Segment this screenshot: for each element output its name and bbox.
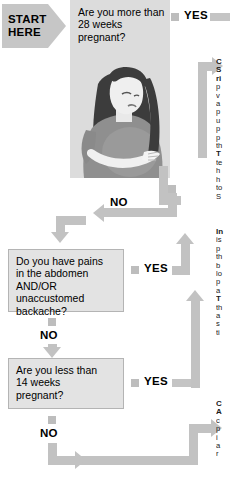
yes-2-label: YES bbox=[144, 262, 168, 274]
yes-1-connector-square bbox=[171, 13, 179, 21]
yes-2-arrowhead bbox=[176, 233, 194, 244]
question-box-2[interactable]: Do you have pains in the abdomen AND/OR … bbox=[8, 249, 124, 312]
start-here-banner: START HERE bbox=[2, 4, 66, 48]
start-label-line1: START bbox=[8, 13, 66, 26]
yes-2-connector-square bbox=[131, 266, 139, 274]
advice-1-line-17: S bbox=[216, 193, 230, 201]
no-3-connector-square bbox=[48, 416, 56, 424]
question-2-text: Do you have pains in the abdomen AND/OR … bbox=[9, 250, 123, 317]
no-1-path-join bbox=[56, 216, 86, 225]
no-3-path-right bbox=[48, 456, 198, 465]
no-1-path-left bbox=[104, 208, 177, 217]
advice-3-line-7: r bbox=[216, 450, 230, 458]
no-1-arrowhead-left bbox=[93, 204, 104, 222]
no-2-label: NO bbox=[40, 329, 58, 341]
start-label-line2: HERE bbox=[8, 26, 66, 39]
advice-block-2: In is p th b lo p a T th a s ti bbox=[216, 228, 230, 337]
advice-3-line-4: p bbox=[216, 425, 230, 433]
question-box-3[interactable]: Are you less than 14 weeks pregnant? bbox=[8, 358, 124, 409]
pregnant-woman-illustration bbox=[70, 44, 170, 178]
yes-2-path-up bbox=[181, 243, 190, 275]
flowchart-canvas: START HERE Are you more than 28 weeks pr… bbox=[0, 0, 230, 478]
no-1-label: NO bbox=[110, 196, 128, 208]
no-3-arrowhead-mid bbox=[75, 451, 86, 469]
question-1-text: Are you more than 28 weeks pregnant? bbox=[70, 0, 170, 43]
no-1-arrowhead-down bbox=[51, 232, 69, 243]
yes-3-label: YES bbox=[144, 375, 168, 387]
no-3-label: NO bbox=[40, 427, 58, 439]
yes-1-label: YES bbox=[184, 9, 208, 21]
yes-3-path-up bbox=[191, 300, 200, 388]
yes-3-arrowhead bbox=[186, 290, 204, 301]
no-2-connector-square bbox=[48, 318, 56, 326]
yes-1-connector-bar bbox=[210, 13, 230, 21]
yes-1-path-vertical bbox=[198, 62, 207, 158]
no-1-connector-square bbox=[168, 185, 176, 193]
advice-block-3: C A c p i a r bbox=[216, 400, 230, 459]
yes-3-connector-square bbox=[131, 379, 139, 387]
no-2-arrowhead bbox=[43, 347, 61, 358]
no-3-path-corner bbox=[189, 424, 213, 433]
advice-2-line-13: ti bbox=[216, 329, 230, 337]
question-3-text: Are you less than 14 weeks pregnant? bbox=[9, 359, 123, 401]
advice-block-1: C S ri p v a p u p p th T te h h to S bbox=[216, 58, 230, 201]
right-riser-jog bbox=[159, 196, 181, 205]
